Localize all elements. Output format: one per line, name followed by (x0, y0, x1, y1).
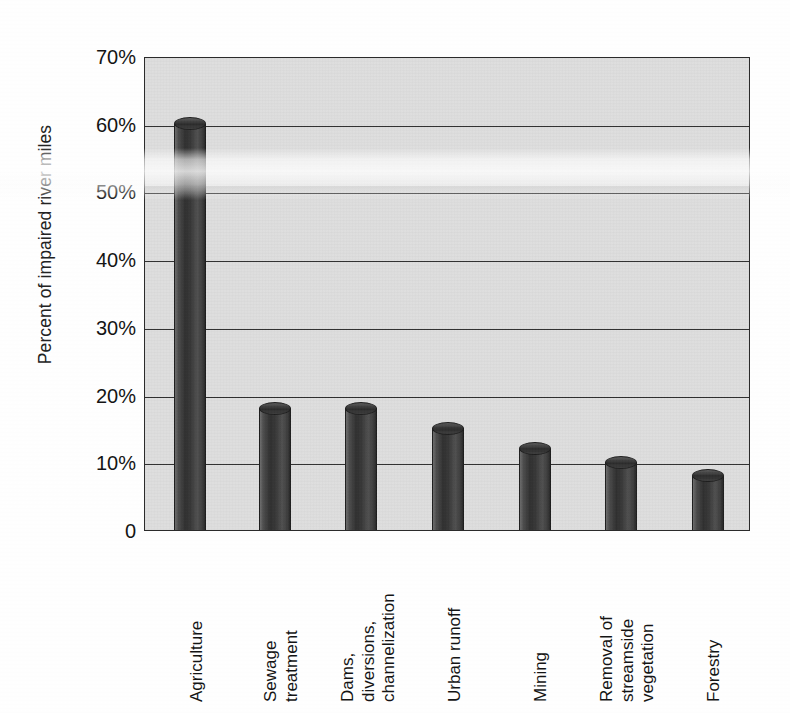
bar-top-ellipse (519, 442, 551, 455)
gridline (145, 397, 749, 398)
bar-body (174, 124, 206, 530)
bar-grain-texture (520, 449, 550, 530)
y-tick-label: 10% (16, 452, 136, 475)
bar-top-ellipse (259, 402, 291, 415)
y-tick-label: 70% (16, 46, 136, 69)
bar-grain-texture (346, 408, 376, 530)
x-tick-label: Sewage treatment (261, 536, 302, 706)
plot-area (144, 57, 750, 531)
y-tick-label: 50% (16, 181, 136, 204)
bar-top-ellipse (345, 402, 377, 415)
bar (519, 449, 551, 530)
gridline (145, 261, 749, 262)
x-tick-label: Mining (531, 536, 552, 706)
x-tick-label: Urban runoff (445, 536, 466, 706)
bar-body (519, 449, 551, 530)
bar-grain-texture (433, 428, 463, 530)
x-tick-label: Removal of streamside vegetation (597, 536, 659, 706)
y-tick-label: 0 (16, 520, 136, 543)
bar (692, 476, 724, 530)
y-tick-label: 60% (16, 113, 136, 136)
bar-body (259, 408, 291, 530)
x-tick-label: Agriculture (187, 536, 208, 706)
bar-grain-texture (260, 408, 290, 530)
bar-body (605, 462, 637, 530)
bar (259, 408, 291, 530)
gridline (145, 126, 749, 127)
gridline (145, 329, 749, 330)
bar (345, 408, 377, 530)
x-tick-label: Forestry (704, 536, 725, 706)
bar-body (692, 476, 724, 530)
x-tick-label: Dams, diversions, channelization (338, 536, 400, 706)
bar (432, 428, 464, 530)
y-tick-label: 40% (16, 249, 136, 272)
bar-grain-texture (693, 476, 723, 530)
bar (174, 124, 206, 530)
bar-body (432, 428, 464, 530)
bar-grain-texture (175, 124, 205, 530)
y-axis-tick-labels: 70%60%50%40%30%20%10%0 (8, 57, 136, 531)
x-axis-category-labels: AgricultureSewage treatmentDams, diversi… (144, 536, 750, 711)
gridline (145, 193, 749, 194)
bar-top-ellipse (432, 422, 464, 435)
y-tick-label: 30% (16, 316, 136, 339)
bar-grain-texture (606, 462, 636, 530)
bar-top-ellipse (605, 456, 637, 469)
bar-body (345, 408, 377, 530)
y-tick-label: 20% (16, 384, 136, 407)
bar (605, 462, 637, 530)
bar-chart-figure: Percent of impaired river miles 70%60%50… (0, 0, 790, 713)
